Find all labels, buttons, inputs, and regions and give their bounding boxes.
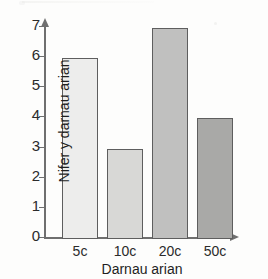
y-tick-label: 0 (32, 228, 40, 243)
y-tick-label: 7 (32, 17, 40, 32)
y-tick-label: 5 (32, 77, 40, 92)
bar-10c (107, 149, 143, 239)
x-axis-title: Darnau arian (44, 262, 240, 276)
scan-artifact-speck (19, 1, 25, 5)
y-tick-label: 2 (32, 168, 40, 183)
y-tick-label: 6 (32, 47, 40, 62)
y-tick-label: 3 (32, 138, 40, 153)
x-category-label-50c: 50c (197, 244, 233, 258)
x-category-label-5c: 5c (62, 244, 98, 258)
plot-area: 01234567 5c10c20c50c Nifer y darnau aria… (44, 18, 240, 239)
y-tick-label: 4 (32, 107, 40, 122)
y-axis-title: Nifer y darnau arian (57, 41, 71, 201)
y-axis-line (44, 26, 46, 239)
x-category-label-10c: 10c (107, 244, 143, 258)
y-tick-label: 1 (32, 198, 40, 213)
scan-artifact-top-crop (22, 1, 154, 3)
bar-50c (197, 118, 233, 239)
bar-20c (152, 28, 188, 239)
bar-chart-figure: 01234567 5c10c20c50c Nifer y darnau aria… (0, 0, 268, 279)
x-category-label-20c: 20c (152, 244, 188, 258)
